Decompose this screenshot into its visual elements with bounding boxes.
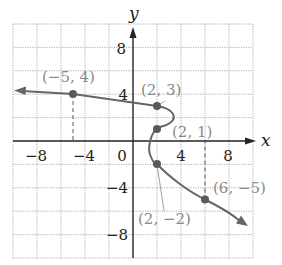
y-axis-arrow-icon bbox=[130, 27, 137, 38]
axes bbox=[13, 27, 256, 258]
point-2-3 bbox=[153, 102, 161, 110]
x-tick-label: −8 bbox=[25, 147, 47, 165]
y-tick-label: 4 bbox=[118, 86, 128, 104]
point-label: (6, −5) bbox=[213, 179, 266, 197]
point-label: (2, 3) bbox=[141, 81, 181, 99]
y-tick-label: −8 bbox=[106, 226, 128, 244]
y-axis-label: y bbox=[128, 3, 139, 23]
point-label: (−5, 4) bbox=[42, 68, 95, 86]
point-6-neg5 bbox=[201, 196, 209, 204]
y-tick-label: −4 bbox=[106, 179, 128, 197]
curve-right-arrow-icon bbox=[236, 216, 248, 227]
x-axis-arrow-icon bbox=[245, 138, 256, 145]
point-2-neg2 bbox=[153, 160, 161, 168]
graph: −8 −4 0 4 8 8 4 −4 −8 y x (−5, 4) (2, 3)… bbox=[0, 0, 282, 265]
point-neg5-4 bbox=[69, 90, 77, 98]
curve-left-arrow-icon bbox=[14, 87, 26, 96]
point-label: (2, −2) bbox=[138, 210, 191, 228]
y-tick-label: 8 bbox=[116, 40, 126, 58]
x-tick-label: 4 bbox=[176, 147, 186, 165]
x-tick-label: 8 bbox=[223, 147, 233, 165]
x-axis-label: x bbox=[261, 130, 271, 150]
x-tick-label: −4 bbox=[73, 147, 95, 165]
point-2-1 bbox=[153, 125, 161, 133]
point-label: (2, 1) bbox=[172, 123, 212, 141]
x-tick-label: 0 bbox=[117, 147, 127, 165]
